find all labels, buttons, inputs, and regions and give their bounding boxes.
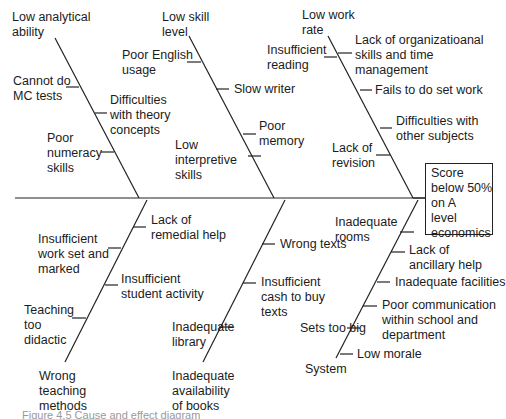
category-wrong-teaching-methods: Wrong teaching methods (39, 369, 87, 414)
cause-label: Low morale (357, 347, 422, 362)
cause-label: Insufficient student activity (121, 272, 204, 302)
category-low-work-rate: Low work rate (302, 8, 355, 38)
cause-label: Lack of remedial help (151, 213, 226, 243)
cause-label: Difficulties with theory concepts (110, 93, 170, 138)
cause-label: Inadequate library (172, 320, 235, 350)
cause-label: Poor numeracy skills (47, 131, 102, 176)
category-inadequate-books: Inadequate availability of books (172, 369, 235, 414)
figure-caption: Figure 4.5 Cause and effect diagram (22, 409, 200, 419)
effect-box: Score below 50% on A level economics (425, 163, 493, 235)
cause-label: Cannot do MC tests (13, 74, 71, 104)
category-low-skill-level: Low skill level (162, 10, 209, 40)
cause-label: Poor memory (259, 119, 304, 149)
cause-label: Fails to do set work (375, 83, 483, 98)
cause-label: Poor communication within school and dep… (382, 298, 496, 343)
cause-label: Insufficient reading (267, 43, 327, 73)
cause-label: Insufficient work set and marked (38, 232, 109, 277)
effect-label: Score below 50% on A level economics (431, 166, 492, 241)
cause-label: Inadequate facilities (395, 275, 506, 290)
cause-label: Lack of organizatioanal skills and time … (355, 33, 484, 78)
cause-label: Teaching too didactic (24, 303, 74, 348)
cause-label: Slow writer (234, 82, 295, 97)
cause-label: Inadequate rooms (335, 215, 398, 245)
cause-label: Lack of revision (332, 141, 375, 171)
cause-label: Difficulties with other subjects (396, 114, 478, 144)
cause-label: Lack of ancillary help (409, 243, 482, 273)
cause-label: Poor English usage (122, 48, 193, 78)
cause-label: Low interpretive skills (175, 138, 237, 183)
cause-label: Sets too big (300, 321, 366, 336)
category-system: System (305, 362, 347, 377)
cause-label: Insufficient cash to buy texts (261, 275, 325, 320)
fishbone-diagram: Low analytical ability Low skill level L… (0, 0, 506, 419)
category-low-analytical-ability: Low analytical ability (12, 10, 91, 40)
